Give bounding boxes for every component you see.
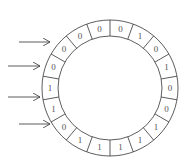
segment-bit: 1 [154, 122, 159, 132]
segment-divider [87, 24, 92, 39]
circular-buffer-diagram: 010100111110110000 [0, 0, 185, 163]
segment-bit: 0 [51, 62, 56, 72]
segment-bit: 0 [97, 24, 102, 34]
segment-divider [143, 36, 153, 48]
segment-divider [43, 76, 59, 79]
segment-bit: 0 [62, 44, 67, 54]
segment-divider [66, 36, 76, 48]
segment-bit: 0 [154, 44, 159, 54]
segment-bit: 0 [168, 83, 173, 93]
segment-bit: 1 [138, 135, 143, 145]
outer-ring [42, 20, 178, 156]
segment-bit: 1 [138, 31, 143, 41]
segment-bit: 1 [118, 142, 123, 152]
segment-divider [87, 137, 92, 152]
segment-divider [161, 76, 177, 79]
segment-bit: 0 [78, 31, 83, 41]
segment-bit: 1 [164, 62, 169, 72]
segment-divider [66, 128, 76, 140]
segment-divider [155, 54, 169, 62]
inner-ring [58, 36, 162, 140]
segment-bit: 0 [62, 122, 67, 132]
segment-bit: 1 [78, 135, 83, 145]
segment-bit: 0 [118, 24, 123, 34]
segment-bit: 0 [164, 104, 169, 114]
segment-divider [128, 137, 133, 152]
segment-divider [128, 24, 133, 39]
segment-divider [43, 97, 59, 100]
segment-bit: 1 [51, 104, 56, 114]
segment-divider [161, 97, 177, 100]
segment-bit: 1 [97, 142, 102, 152]
segment-divider [143, 128, 153, 140]
segment-bit: 1 [48, 83, 53, 93]
segment-divider [51, 54, 65, 62]
